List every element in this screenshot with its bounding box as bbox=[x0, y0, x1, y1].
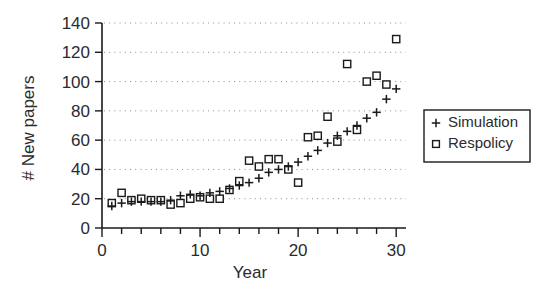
x-axis-tick-labels: 0102030 bbox=[97, 241, 405, 260]
scatter-plot-svg: 020406080100120140 0102030 Year # New pa… bbox=[0, 0, 536, 296]
x-axis-title: Year bbox=[233, 263, 268, 282]
x-tick-label-0: 0 bbox=[97, 241, 106, 260]
chart-figure: 020406080100120140 0102030 Year # New pa… bbox=[0, 0, 536, 296]
gridlines-group bbox=[104, 23, 406, 199]
y-axis-tick-labels: 020406080100120140 bbox=[62, 14, 90, 238]
data-point-respolicy-28 bbox=[373, 72, 380, 79]
data-point-simulation-23 bbox=[323, 139, 331, 147]
data-point-respolicy-17 bbox=[265, 156, 272, 163]
data-point-simulation-20 bbox=[294, 158, 302, 166]
series-simulation-points bbox=[108, 85, 401, 211]
data-point-respolicy-23 bbox=[324, 113, 331, 120]
data-point-simulation-30 bbox=[392, 85, 400, 93]
data-point-respolicy-12 bbox=[216, 195, 223, 202]
data-point-simulation-29 bbox=[382, 95, 390, 103]
data-point-simulation-2 bbox=[117, 199, 125, 207]
data-point-simulation-12 bbox=[215, 187, 223, 195]
data-point-simulation-25 bbox=[343, 127, 351, 135]
data-point-respolicy-8 bbox=[177, 200, 184, 207]
data-point-respolicy-27 bbox=[363, 78, 370, 85]
data-point-simulation-27 bbox=[363, 114, 371, 122]
data-point-simulation-28 bbox=[372, 108, 380, 116]
y-tick-label-120: 120 bbox=[62, 43, 90, 62]
data-point-respolicy-18 bbox=[275, 156, 282, 163]
data-point-simulation-15 bbox=[245, 178, 253, 186]
y-axis-ticks bbox=[95, 23, 102, 228]
x-axis-ticks bbox=[102, 228, 396, 237]
chart-legend: SimulationRespolicy bbox=[424, 110, 530, 162]
y-tick-label-80: 80 bbox=[71, 102, 90, 121]
y-tick-label-60: 60 bbox=[71, 131, 90, 150]
legend-marker-respolicy bbox=[433, 141, 440, 148]
x-tick-label-20: 20 bbox=[289, 241, 308, 260]
y-tick-label-140: 140 bbox=[62, 14, 90, 33]
data-point-respolicy-2 bbox=[118, 189, 125, 196]
x-tick-label-30: 30 bbox=[387, 241, 406, 260]
data-point-respolicy-29 bbox=[383, 81, 390, 88]
data-point-simulation-21 bbox=[304, 152, 312, 160]
y-tick-label-40: 40 bbox=[71, 160, 90, 179]
series-respolicy-points bbox=[108, 36, 400, 209]
legend-label-respolicy: Respolicy bbox=[448, 134, 514, 151]
y-tick-label-0: 0 bbox=[81, 219, 90, 238]
data-point-respolicy-15 bbox=[245, 157, 252, 164]
data-point-respolicy-25 bbox=[344, 60, 351, 67]
legend-label-simulation: Simulation bbox=[448, 113, 518, 130]
data-point-simulation-18 bbox=[274, 165, 282, 173]
y-tick-label-20: 20 bbox=[71, 190, 90, 209]
data-point-respolicy-21 bbox=[304, 134, 311, 141]
x-tick-label-10: 10 bbox=[191, 241, 210, 260]
data-point-respolicy-30 bbox=[393, 36, 400, 43]
y-tick-label-100: 100 bbox=[62, 73, 90, 92]
data-point-respolicy-22 bbox=[314, 132, 321, 139]
y-axis-title: # New papers bbox=[19, 76, 38, 181]
data-point-simulation-22 bbox=[314, 146, 322, 154]
data-point-respolicy-16 bbox=[255, 163, 262, 170]
data-point-simulation-16 bbox=[255, 174, 263, 182]
data-point-respolicy-20 bbox=[295, 179, 302, 186]
